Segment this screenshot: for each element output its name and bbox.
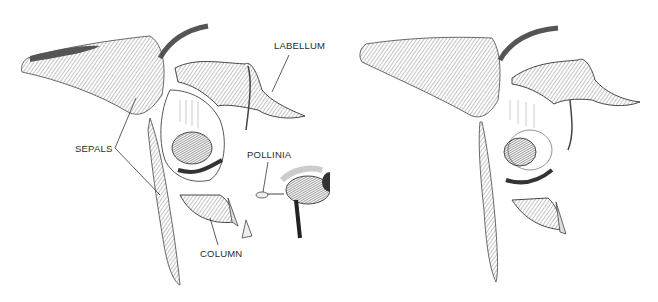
label-labellum: LABELLUM: [274, 40, 325, 51]
flying-bee: [256, 168, 330, 238]
labellum: [512, 59, 640, 105]
bee-inside: [504, 138, 536, 166]
label-pollinia: POLLINIA: [247, 149, 291, 160]
labellum: [175, 62, 305, 119]
orchid-illustration-right: [330, 0, 658, 302]
lateral-sepal: [479, 122, 497, 282]
label-column: COLUMN: [200, 248, 242, 259]
stem: [160, 26, 208, 58]
pollinia-on-bee: [256, 192, 268, 198]
upper-sepal: [360, 37, 500, 117]
column: [512, 198, 562, 230]
label-sepals: SEPALS: [75, 143, 112, 154]
bee-leg: [506, 170, 552, 182]
column: [180, 195, 235, 223]
vein-lines: [180, 100, 198, 128]
panel-left-labelled-orchid: LABELLUM SEPALS POLLINIA COLUMN: [0, 0, 330, 302]
stem: [500, 28, 558, 60]
panel-right-unlabelled-orchid: [330, 0, 658, 302]
vein-lines: [510, 100, 534, 128]
pollinium-dropped: [242, 220, 252, 238]
bee-inside: [172, 132, 212, 164]
